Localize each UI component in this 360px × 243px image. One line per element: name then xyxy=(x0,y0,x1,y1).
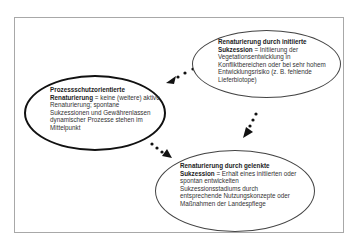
arrow-initiiert-to-gelenkt xyxy=(243,112,258,138)
separator: = xyxy=(215,170,222,177)
arrow-initiiert-to-prozessschutz xyxy=(166,67,195,84)
node-initiierte-sukzession-text: Renaturierung durch initiierte Sukzessio… xyxy=(218,38,333,84)
node-gelenkte-sukzession-text: Renaturierung durch gelenkte Sukzession … xyxy=(180,162,300,208)
arrow-prozessschutz-to-gelenkt xyxy=(150,142,172,158)
node-prozessschutz-text: Prozessschutzorientierte Renaturierung =… xyxy=(50,86,160,132)
separator: = xyxy=(253,46,260,53)
